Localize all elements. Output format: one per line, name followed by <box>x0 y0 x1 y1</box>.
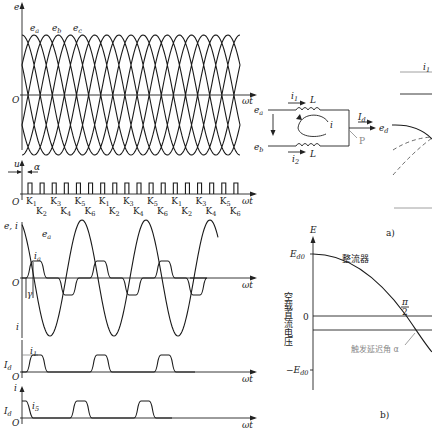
i5-curve <box>22 401 172 418</box>
pulse-label-bottom: K2 <box>181 206 192 218</box>
arrow-icon <box>271 130 276 136</box>
pulse-labels: K1K3K5K1K3K5K1K3K5K2K4K6K2K4K6K2K4K6 <box>26 196 241 218</box>
curve-label-rectifier: 整流器 <box>342 253 369 264</box>
tick-label-ed0: Ed0 <box>289 249 305 261</box>
curve-label-ea: ea <box>42 229 51 241</box>
partial-dashed-curve <box>393 137 432 150</box>
loop-label-i: i <box>330 120 333 130</box>
caption-a: a) <box>386 228 395 238</box>
arrow-icon <box>27 170 32 174</box>
curve-label-eb: eb <box>52 23 62 35</box>
lower-label-i: i <box>16 322 19 332</box>
x-label-wt: ωt <box>242 280 253 290</box>
pulse-label-bottom: K6 <box>84 206 95 218</box>
point-p-leader <box>349 130 357 138</box>
current-label-i1: i1 <box>291 91 298 103</box>
level-label-id: Id <box>3 406 12 418</box>
pulse-label-bottom: K6 <box>157 206 168 218</box>
origin-label: O <box>12 278 20 288</box>
gamma-label: γ <box>27 289 33 299</box>
alpha-label: α <box>34 162 40 172</box>
x-label-wt: ωt <box>242 374 253 384</box>
current-label-i2: i2 <box>292 154 299 166</box>
pulse-label-bottom: K2 <box>36 206 47 218</box>
origin-label: O <box>12 372 20 382</box>
origin-label: O <box>12 197 20 207</box>
y-label-i: i <box>14 383 17 393</box>
node-label-eb: eb <box>254 142 264 154</box>
panel-phase-current <box>20 220 257 338</box>
level-label-id: Id <box>3 360 12 372</box>
node-label-ea: ea <box>254 105 263 117</box>
i1-curve <box>22 355 195 372</box>
panel-trigger-pulses <box>8 160 257 200</box>
panel-i1 <box>20 340 257 378</box>
rectifier-curve <box>313 254 432 352</box>
label-2: 2 <box>402 307 408 317</box>
pulse-label-bottom: K4 <box>206 206 217 218</box>
point-label-p: P <box>359 136 365 146</box>
pulse-label-bottom: K4 <box>60 206 71 218</box>
partial-curve <box>392 125 432 139</box>
y-axis-arrow-icon <box>311 236 316 243</box>
inductor-label-L2: L <box>309 149 316 159</box>
curve-label-ea: ea <box>30 23 39 35</box>
arrow-icon <box>367 120 373 125</box>
arrow-icon <box>300 101 306 106</box>
y-axis-title-b: 空载直流电压 <box>281 292 293 346</box>
x-label-wt: ωt <box>242 96 253 106</box>
circulating-current-loop <box>298 115 328 136</box>
inductor-L2 <box>296 144 320 147</box>
tick-label-zero: 0 <box>303 312 309 322</box>
ia-curve <box>22 261 207 295</box>
curve-label-ec: ec <box>73 23 82 35</box>
alpha-leader <box>405 333 415 345</box>
y-axis-arrow-icon <box>20 386 25 392</box>
tick-label-neg-ed0: −Ed0 <box>286 365 308 377</box>
inductor-L1 <box>296 108 320 111</box>
y-label-e: e <box>14 2 19 12</box>
arrow-icon <box>300 150 306 155</box>
y-label-ei: e, i <box>4 221 18 231</box>
pulse-train <box>28 183 238 194</box>
x-annotation-firing-angle: 触发延迟角 α <box>351 344 399 354</box>
curve-label-i5: i5 <box>32 401 39 413</box>
panel-b-chart <box>310 236 432 390</box>
partial-dashed-curve <box>393 138 432 175</box>
y-axis-arrow-icon <box>20 2 25 9</box>
arrow-icon <box>296 114 302 120</box>
arrow-icon <box>17 170 22 174</box>
x-label-wt: ωt <box>242 420 253 430</box>
figure-canvas: e ea eb ec O ωt u α O ωt K1K3K5K1K3K5K1K… <box>0 0 432 439</box>
pulse-label-bottom: K2 <box>109 206 120 218</box>
origin-label: O <box>12 418 20 428</box>
x-label-wt: ωt <box>242 196 253 206</box>
origin-label: O <box>12 95 20 105</box>
y-label-u: u <box>14 159 20 169</box>
y-label-E: E <box>309 225 317 235</box>
y-axis-arrow-icon <box>20 160 25 166</box>
inductor-label-L1: L <box>309 95 316 105</box>
pulse-label-bottom: K4 <box>133 206 144 218</box>
pulse-label-bottom: K6 <box>230 206 241 218</box>
panel-i5 <box>20 386 258 424</box>
arrow-icon <box>370 126 376 131</box>
node-label-ed: ed <box>379 123 389 135</box>
label-pi: π <box>401 297 409 307</box>
caption-b: b) <box>380 410 389 420</box>
